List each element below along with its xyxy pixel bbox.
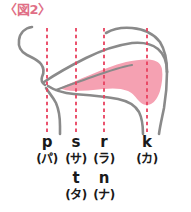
label-column-k: k (カ)	[125, 134, 169, 205]
face-profile-lower	[46, 88, 60, 134]
figure-container: 〈図2〉 p (パ) s (サ)	[0, 0, 191, 212]
mouth-floor-outline	[48, 86, 143, 134]
label-column-r-n: r (ラ) n (ナ)	[82, 134, 126, 205]
label-kana-k-row2	[125, 187, 169, 205]
label-romaji-k-row2	[125, 170, 169, 187]
label-romaji-n: n	[82, 170, 126, 187]
label-kana-ra: (ラ)	[82, 151, 126, 169]
label-kana-ka: (カ)	[125, 151, 169, 169]
label-romaji-k: k	[125, 134, 169, 151]
face-profile-upper	[19, 27, 45, 85]
label-kana-na: (ナ)	[82, 187, 126, 205]
label-romaji-r: r	[82, 134, 126, 151]
